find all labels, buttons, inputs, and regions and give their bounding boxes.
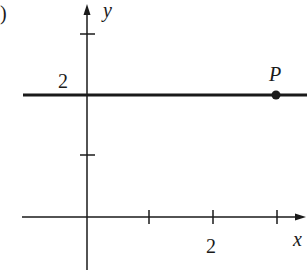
- x-axis-label: x: [292, 228, 302, 250]
- y-tick-label-2: 2: [58, 70, 68, 92]
- point-p: [272, 91, 281, 100]
- x-axis-arrow-icon: [295, 214, 306, 221]
- x-tick-label-2: 2: [206, 235, 216, 257]
- part-label: ): [0, 2, 7, 25]
- y-axis-arrow-icon: [84, 4, 91, 15]
- coordinate-diagram: ) y x 2 2 P: [0, 0, 307, 270]
- point-p-label: P: [268, 63, 281, 85]
- y-axis-label: y: [101, 0, 112, 22]
